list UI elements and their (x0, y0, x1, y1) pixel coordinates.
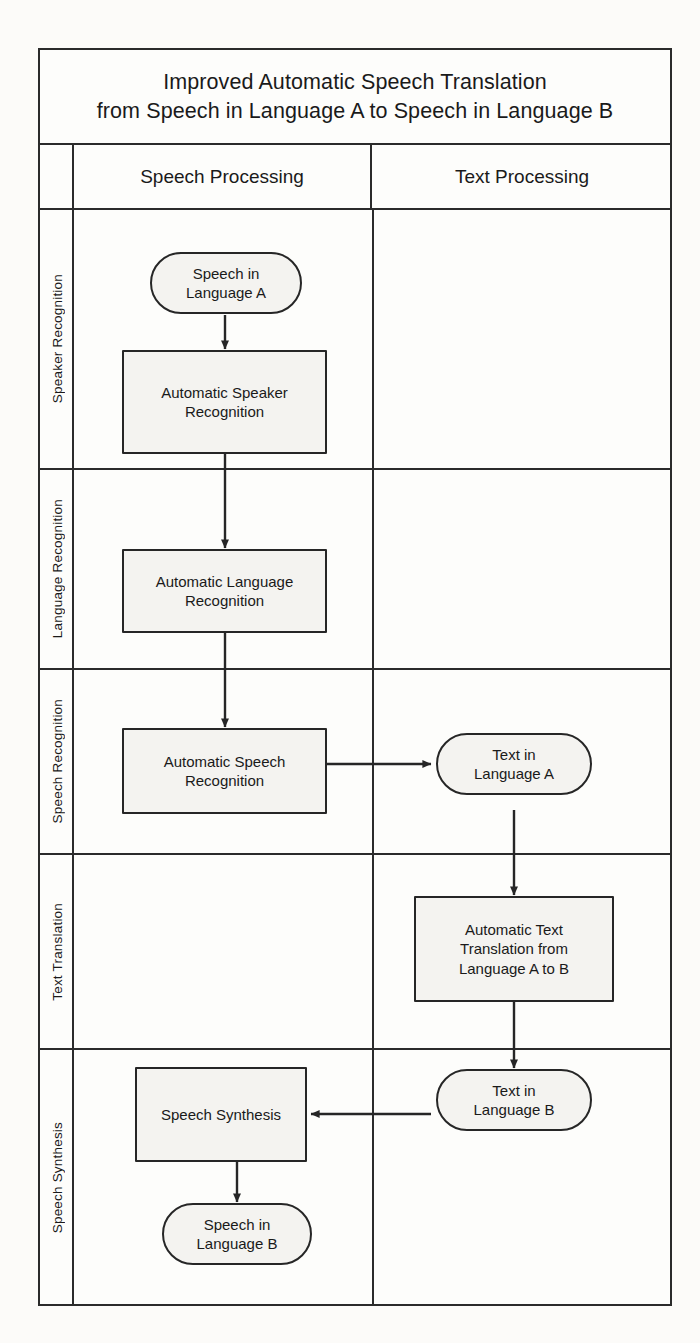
column-divider (372, 210, 374, 1306)
stage-label-text: Speech Synthesis (50, 1122, 65, 1233)
node-automatic-language-recognition[interactable]: Automatic Language Recognition (122, 549, 327, 633)
node-text-in-language-a[interactable]: Text in Language A (436, 733, 592, 795)
title-line-2: from Speech in Language A to Speech in L… (97, 97, 614, 125)
stage-label-text: Speech Recognition (50, 699, 65, 823)
column-header-text-processing: Text Processing (372, 145, 672, 208)
node-label: Automatic Language Recognition (156, 572, 294, 611)
column-header-row: Speech Processing Text Processing (74, 145, 672, 210)
node-label: Speech Synthesis (161, 1105, 281, 1125)
node-automatic-text-translation[interactable]: Automatic Text Translation from Language… (414, 896, 614, 1002)
stage-label-text-translation: Text Translation (40, 855, 74, 1050)
node-automatic-speaker-recognition[interactable]: Automatic Speaker Recognition (122, 350, 327, 454)
node-label: Automatic Text Translation from Language… (459, 920, 569, 979)
node-text-in-language-b[interactable]: Text in Language B (436, 1069, 592, 1131)
stage-label-column: Speaker Recognition Language Recognition… (40, 145, 74, 1306)
title-line-1: Improved Automatic Speech Translation (97, 68, 614, 96)
stage-label-spacer (40, 145, 74, 210)
node-speech-in-language-b[interactable]: Speech in Language B (162, 1203, 312, 1265)
diagram-title: Improved Automatic Speech Translation fr… (40, 50, 670, 145)
node-automatic-speech-recognition[interactable]: Automatic Speech Recognition (122, 728, 327, 814)
node-label: Automatic Speaker Recognition (161, 383, 288, 422)
stage-label-speaker-recognition: Speaker Recognition (40, 210, 74, 470)
stage-label-speech-recognition: Speech Recognition (40, 670, 74, 855)
node-label: Speech in Language A (186, 264, 266, 303)
node-label: Text in Language B (474, 1081, 555, 1120)
stage-label-text: Speaker Recognition (50, 274, 65, 403)
node-label: Automatic Speech Recognition (164, 752, 286, 791)
column-header-speech-processing: Speech Processing (74, 145, 372, 208)
node-speech-synthesis[interactable]: Speech Synthesis (135, 1067, 307, 1162)
stage-label-text: Text Translation (50, 903, 65, 1001)
swimlane-flowchart: Improved Automatic Speech Translation fr… (38, 48, 672, 1306)
node-speech-in-language-a[interactable]: Speech in Language A (150, 252, 302, 314)
stage-label-text: Language Recognition (50, 499, 65, 638)
stage-label-speech-synthesis: Speech Synthesis (40, 1050, 74, 1306)
node-label: Text in Language A (474, 745, 554, 784)
stage-label-language-recognition: Language Recognition (40, 470, 74, 670)
node-label: Speech in Language B (197, 1215, 278, 1254)
